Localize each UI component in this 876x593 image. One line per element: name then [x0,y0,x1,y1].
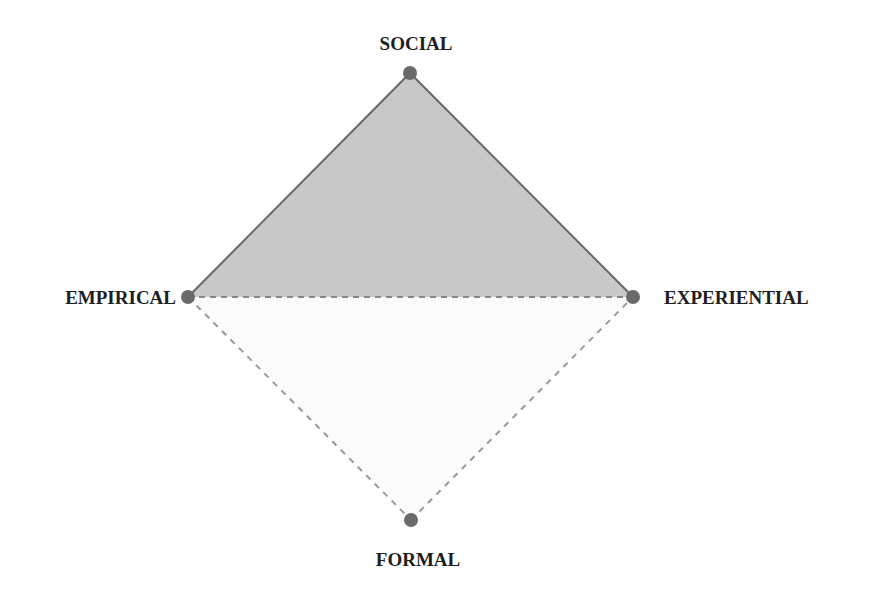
node-formal-label: FORMAL [376,549,460,570]
diamond-diagram: SOCIAL EMPIRICAL EXPERIENTIAL FORMAL [0,0,876,593]
upper-triangle-region [188,73,633,297]
node-social-label: SOCIAL [380,33,453,54]
node-experiential-label: EXPERIENTIAL [664,287,809,308]
node-formal-dot [404,513,418,527]
node-empirical-label: EMPIRICAL [65,287,176,308]
lower-triangle-region [188,297,633,520]
node-social-dot [403,66,417,80]
node-empirical-dot [181,290,195,304]
node-experiential-dot [626,290,640,304]
